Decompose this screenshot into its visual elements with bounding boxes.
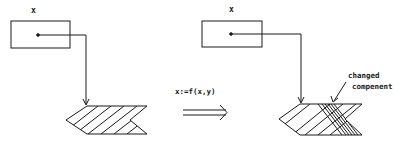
double-arrow-icon (183, 105, 227, 120)
after-pointer-arrow (231, 34, 301, 102)
after-structure (279, 104, 368, 135)
before-structure (62, 106, 163, 134)
diagram-canvas (0, 0, 408, 152)
before-pointer-arrow (38, 35, 86, 104)
annotation-arrow (334, 82, 346, 101)
